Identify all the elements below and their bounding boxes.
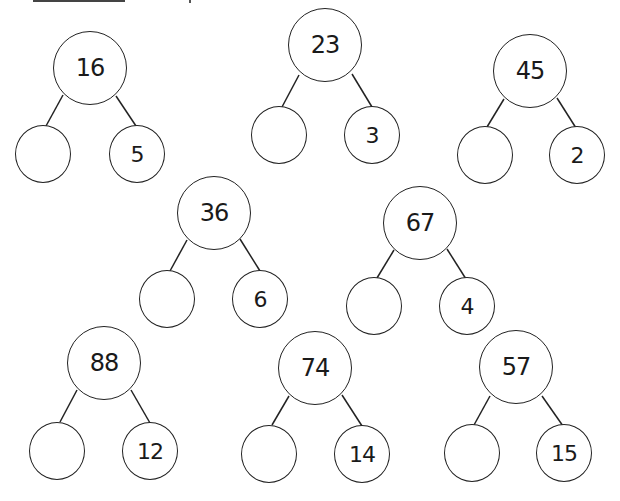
part-number: 5 [131, 142, 144, 167]
bond-whole-circle: 45 [493, 34, 567, 108]
whole-number: 57 [502, 353, 531, 381]
bond-blank-part-circle[interactable] [444, 424, 500, 482]
bond-whole-circle: 23 [288, 8, 362, 82]
bond-blank-part-circle[interactable] [15, 125, 71, 183]
bond-whole-circle: 36 [177, 176, 251, 250]
bond-known-part-circle: 3 [344, 106, 400, 164]
bond-blank-part-circle[interactable] [139, 270, 195, 328]
part-number: 12 [137, 439, 163, 464]
part-number: 3 [366, 123, 379, 148]
bond-known-part-circle: 14 [334, 425, 390, 483]
bond-whole-circle: 74 [278, 331, 352, 405]
bond-blank-part-circle[interactable] [346, 277, 402, 335]
part-number: 4 [461, 294, 474, 319]
bond-known-part-circle: 6 [232, 270, 288, 328]
whole-number: 45 [516, 57, 545, 85]
part-number: 15 [551, 441, 577, 466]
bond-whole-circle: 57 [479, 330, 553, 404]
bond-known-part-circle: 4 [439, 277, 495, 335]
bond-blank-part-circle[interactable] [457, 126, 513, 184]
whole-number: 36 [200, 199, 229, 227]
whole-number: 67 [406, 209, 435, 237]
bond-whole-circle: 16 [53, 31, 127, 105]
bond-known-part-circle: 15 [536, 424, 592, 482]
bond-whole-circle: 67 [383, 186, 457, 260]
whole-number: 23 [311, 31, 340, 59]
bond-blank-part-circle[interactable] [29, 422, 85, 480]
whole-number: 16 [76, 54, 105, 82]
whole-number: 88 [90, 349, 119, 377]
bond-whole-circle: 88 [67, 326, 141, 400]
part-number: 6 [254, 287, 267, 312]
bond-blank-part-circle[interactable] [241, 425, 297, 483]
whole-number: 74 [301, 354, 330, 382]
bond-known-part-circle: 12 [122, 422, 178, 480]
bond-blank-part-circle[interactable] [251, 106, 307, 164]
part-number: 2 [571, 143, 584, 168]
bond-known-part-circle: 2 [549, 126, 605, 184]
part-number: 14 [349, 442, 375, 467]
bond-known-part-circle: 5 [109, 125, 165, 183]
